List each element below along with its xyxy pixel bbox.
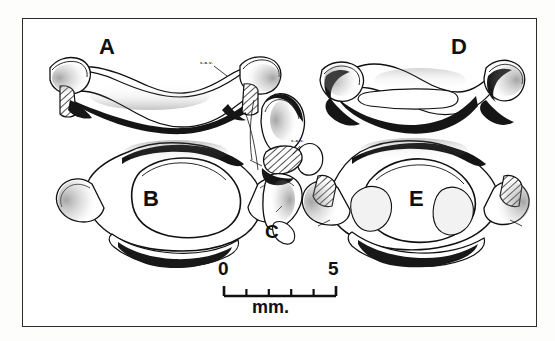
- figure-d-drawing: [320, 60, 525, 133]
- annotation-label-c: s.a.v.: [291, 138, 304, 143]
- scale-end-label: 5: [328, 258, 339, 280]
- scale-start-label: 0: [218, 258, 229, 280]
- annotation-label-a: s.a.v.: [200, 60, 213, 65]
- figure-a-drawing: [50, 57, 281, 134]
- figure-label-d: D: [451, 36, 467, 58]
- figure-label-c: C: [265, 222, 279, 241]
- figure-label-b: B: [143, 188, 159, 210]
- illustration-plate: A B C D E s.a.v. s.a.v. 0 5 mm.: [0, 0, 555, 341]
- figure-b-drawing: [56, 140, 294, 268]
- figure-label-a: A: [99, 36, 115, 58]
- scale-unit-label: mm.: [252, 297, 289, 318]
- figure-label-e: E: [409, 188, 424, 210]
- scale-bar: 0 5 mm.: [210, 258, 350, 320]
